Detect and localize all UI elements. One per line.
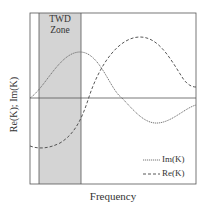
legend-im-label: Im(K)	[162, 154, 185, 164]
twd-zone-shade	[39, 13, 81, 184]
y-axis-label: Re(K); Im(K)	[8, 60, 19, 150]
x-axis-label: Frequency	[0, 190, 208, 202]
zone-label-line2: Zone	[39, 25, 81, 36]
twd-zone-label: TWD Zone	[39, 14, 81, 36]
zone-label-line1: TWD	[39, 14, 81, 25]
legend-re-label: Re(K)	[162, 168, 185, 178]
